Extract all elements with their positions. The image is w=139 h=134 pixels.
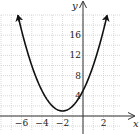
y-tick-label: 4: [75, 91, 81, 101]
tick-labels: −6−4−22481216xy: [15, 0, 139, 129]
parabola-graph: −6−4−22481216xy: [0, 0, 139, 134]
y-axis-label: y: [71, 0, 78, 11]
x-tick-label: −2: [56, 118, 69, 128]
x-tick-label: −4: [35, 118, 49, 128]
y-tick-label: 12: [70, 50, 81, 60]
x-tick-label: 2: [101, 118, 107, 128]
y-tick-label: 16: [70, 30, 82, 40]
x-axis-label: x: [133, 118, 139, 129]
parabola-left-arrow: [18, 15, 20, 21]
x-tick-label: −6: [15, 118, 29, 128]
y-tick-label: 8: [75, 71, 81, 81]
